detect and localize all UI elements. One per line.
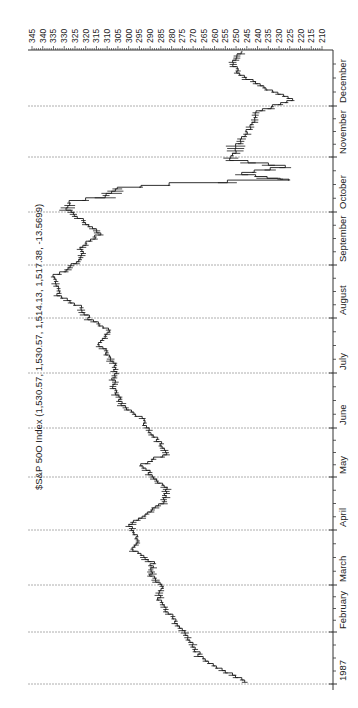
- price-tick-label: 330: [59, 29, 69, 43]
- month-label: December: [337, 59, 348, 103]
- price-tick-label: 325: [70, 29, 80, 43]
- price-tick-label: 345: [27, 29, 37, 43]
- price-axis: 3453403353303253203153103053002952902852…: [27, 29, 333, 50]
- price-tick-label: 315: [91, 29, 101, 43]
- price-tick-label: 220: [296, 29, 306, 43]
- price-tick-label: 265: [199, 29, 209, 43]
- month-label: March: [337, 556, 348, 582]
- price-series: [51, 52, 295, 683]
- price-tick-label: 260: [210, 29, 220, 43]
- price-tick-label: 275: [177, 29, 187, 43]
- month-gridlines: [28, 106, 333, 684]
- price-tick-label: 295: [134, 29, 144, 43]
- month-label: May: [337, 456, 348, 474]
- price-tick-label: 225: [285, 29, 295, 43]
- month-label: April: [337, 508, 348, 527]
- month-label: 1987: [337, 660, 348, 681]
- price-tick-label: 335: [48, 29, 58, 43]
- price-tick-label: 285: [156, 29, 166, 43]
- price-tick-label: 305: [113, 29, 123, 43]
- price-tick-label: 310: [102, 29, 112, 43]
- price-tick-label: 230: [274, 29, 284, 43]
- price-tick-label: 240: [253, 29, 263, 43]
- price-tick-label: 255: [220, 29, 230, 43]
- price-tick-label: 300: [124, 29, 134, 43]
- sp500-1987-chart: 3453403353303253203153103053002952902852…: [0, 0, 358, 708]
- month-label: February: [337, 591, 348, 629]
- time-axis: 1987FebruaryMarchAprilMayJuneJulyAugustS…: [329, 50, 348, 690]
- month-label: June: [337, 404, 348, 425]
- price-tick-label: 250: [231, 29, 241, 43]
- month-label: August: [337, 285, 348, 315]
- price-tick-label: 235: [263, 29, 273, 43]
- month-label: November: [337, 110, 348, 154]
- chart-title: $S&P 50O Index (1,530.57, 1,530.57, 1,51…: [33, 204, 44, 490]
- price-tick-label: 210: [317, 29, 327, 43]
- month-label: September: [337, 216, 348, 262]
- price-line: [53, 52, 293, 683]
- price-tick-label: 270: [188, 29, 198, 43]
- month-label: October: [337, 175, 348, 209]
- month-label: July: [337, 353, 348, 370]
- price-tick-label: 280: [167, 29, 177, 43]
- price-tick-label: 215: [306, 29, 316, 43]
- price-tick-label: 245: [242, 29, 252, 43]
- price-tick-label: 290: [145, 29, 155, 43]
- price-tick-label: 340: [38, 29, 48, 43]
- price-tick-label: 320: [81, 29, 91, 43]
